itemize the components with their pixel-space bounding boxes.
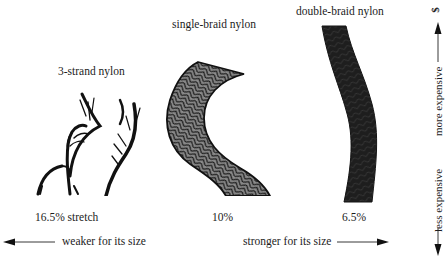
- three-strand-rope-illustration: [30, 86, 150, 196]
- stretch-value-single-braid: 10%: [212, 211, 233, 223]
- stretch-value-double-braid: 6.5%: [342, 211, 366, 223]
- rope-name-single-braid: single-braid nylon: [172, 18, 256, 30]
- double-braid-rope-illustration: [318, 24, 398, 204]
- rope-name-double-braid: double-braid nylon: [296, 5, 384, 17]
- arrow-up-icon: [433, 22, 443, 62]
- more-expensive-label: more expensive: [432, 67, 444, 136]
- stretch-value-3-strand: 16.5% stretch: [35, 211, 98, 223]
- weaker-label: weaker for its size: [62, 235, 146, 247]
- single-braid-rope-illustration: [160, 56, 280, 196]
- rope-name-3-strand: 3-strand nylon: [58, 65, 125, 77]
- arrow-left-icon: [3, 237, 55, 247]
- dollar-symbol: $: [429, 7, 441, 13]
- arrow-down-icon: [433, 228, 443, 256]
- stronger-label: stronger for its size: [243, 235, 331, 247]
- less-expensive-label: less expensive: [432, 169, 444, 232]
- arrow-right-icon: [337, 237, 389, 247]
